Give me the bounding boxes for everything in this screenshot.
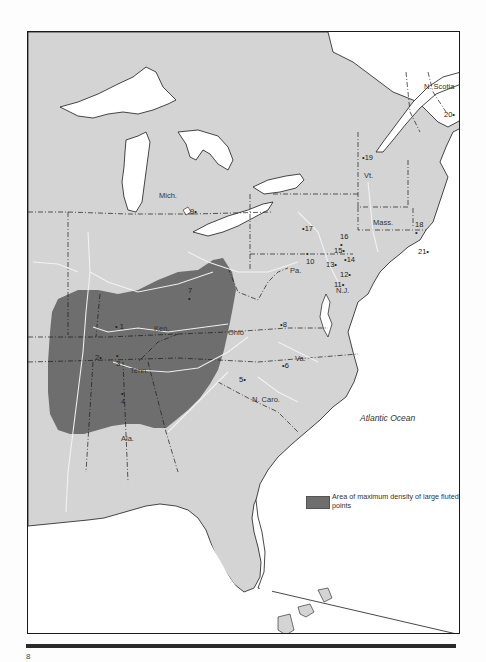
label-vt: Vt. [364,172,373,180]
label-tenn: Tenn. [130,367,148,375]
site-number: 21 [418,247,426,256]
label-n-scotia: N. Scotia [424,83,454,91]
legend-swatch-density [306,496,330,509]
site-marker: 12• [340,271,351,279]
site-marker: 9• [190,208,197,216]
site-marker: •4 [121,390,125,405]
site-number: 5 [239,375,243,384]
site-marker: •14 [344,256,355,264]
cuba-island [278,614,294,634]
site-number: 18 [415,220,423,229]
site-number: 13 [326,260,334,269]
site-marker: 20• [444,111,455,119]
label-ala: Ala. [121,435,134,443]
label-n-caro: N. Caro. [252,396,280,404]
site-number: 9 [190,207,194,216]
site-marker: 18• [415,221,423,236]
site-number: 14 [347,255,355,264]
site-marker: •3 [116,352,120,367]
map-svg [28,32,460,634]
book-page: N. Scotia Vt. Mass. Mich. Pa. N.J. Ohio … [0,0,486,662]
site-marker: 5• [239,376,246,384]
site-marker: • 1 [115,323,124,331]
page-number: 8 [26,652,30,661]
upper-water [433,32,460,62]
site-number: 20 [444,110,452,119]
label-mass: Mass. [373,219,393,227]
site-marker: •6 [282,362,289,370]
site-marker: 11• [334,281,344,289]
site-marker: 7• [188,287,192,302]
bahamas-island [298,604,314,617]
site-number: 17 [305,224,313,233]
site-number: 3 [116,359,120,368]
site-number: 11 [334,280,342,289]
site-marker: •19 [362,154,373,162]
label-ken: Ken. [154,325,169,333]
label-ohio: Ohio [228,329,244,337]
site-number: 2 [95,353,99,362]
site-marker: •8 [280,321,287,329]
site-number: 8 [283,320,287,329]
site-marker: 16• [340,233,348,248]
site-number: 7 [188,286,192,295]
site-number: 19 [365,153,373,162]
site-number: 10 [306,257,314,266]
site-marker: 2• [95,354,102,362]
site-number: 16 [340,232,348,241]
label-mich: Mich. [159,192,177,200]
label-atlantic-ocean: Atlantic Ocean [360,414,415,423]
site-number: 1 [120,322,124,331]
site-number: 4 [121,397,125,406]
label-pa: Pa. [290,267,301,275]
label-va: Va. [295,355,306,363]
site-marker: •17 [302,225,313,233]
site-number: 6 [285,361,289,370]
legend-label: Area of maximum density of large fluted … [332,492,460,510]
page-rule [26,644,456,648]
site-marker: 13• [326,261,337,269]
map-legend: Area of maximum density of large fluted … [306,492,460,516]
site-number: 12 [340,270,348,279]
site-marker: •10 [306,250,314,265]
site-marker: 21• [418,248,429,256]
map-frame: N. Scotia Vt. Mass. Mich. Pa. N.J. Ohio … [27,31,460,634]
